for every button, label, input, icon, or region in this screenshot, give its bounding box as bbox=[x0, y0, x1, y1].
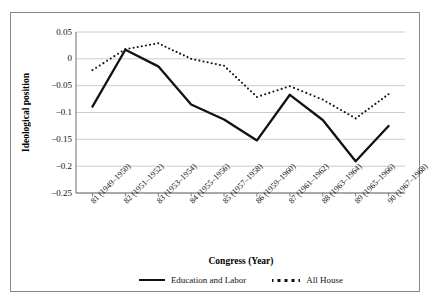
chart-legend: Education and Labor All House bbox=[76, 272, 406, 288]
x-axis-title: Congress (Year) bbox=[76, 256, 406, 266]
legend-label: Education and Labor bbox=[171, 275, 246, 285]
legend-label: All House bbox=[306, 275, 343, 285]
legend-item-all-house[interactable]: All House bbox=[272, 275, 343, 285]
legend-item-education-and-labor[interactable]: Education and Labor bbox=[139, 275, 246, 285]
solid-line-swatch-icon bbox=[139, 279, 165, 281]
dotted-line-swatch-icon bbox=[272, 279, 300, 282]
